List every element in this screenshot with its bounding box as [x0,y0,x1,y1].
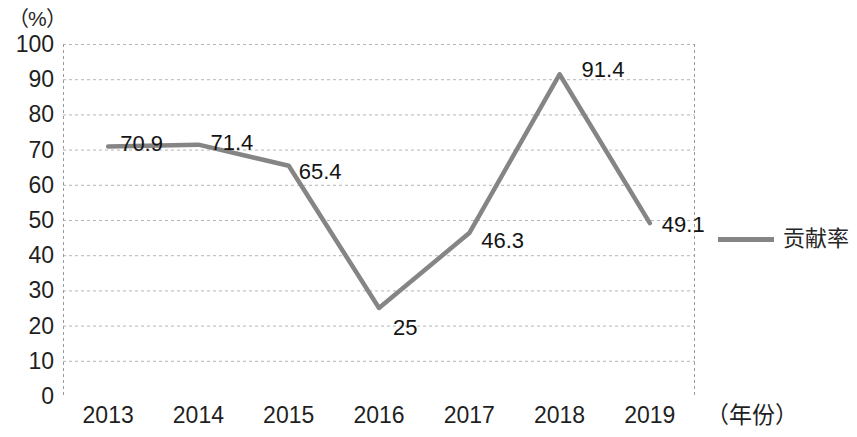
data-label-2016: 25 [393,317,417,339]
line-chart-figure: （%） 1009080706050403020100 2013201420152… [0,0,857,437]
series-line-贡献率 [108,74,650,308]
y-tick-label: 20 [8,315,54,338]
legend-label-contribution-rate: 贡献率 [783,228,849,250]
y-tick-label: 70 [8,139,54,162]
y-tick-label: 100 [8,33,54,56]
plot-area [63,44,695,396]
x-tick-label-2019: 2019 [605,404,695,427]
series-line-chart-svg [63,44,695,396]
y-axis-unit-label: （%） [8,2,66,32]
y-tick-label: 80 [8,103,54,126]
y-tick-label: 10 [8,350,54,373]
x-tick-label-2017: 2017 [424,404,514,427]
data-label-2014: 71.4 [210,132,253,154]
y-tick-label: 0 [8,385,54,408]
x-tick-label-2018: 2018 [515,404,605,427]
x-tick-label-2014: 2014 [153,404,243,427]
y-tick-label: 90 [8,68,54,91]
data-label-2018: 91.4 [582,59,625,81]
x-tick-label-2016: 2016 [334,404,424,427]
x-tick-label-2013: 2013 [63,404,153,427]
data-label-2019: 49.1 [662,214,705,236]
chart-legend: 贡献率 [718,228,849,250]
data-label-2017: 46.3 [481,230,524,252]
legend-line-swatch [718,237,774,242]
y-tick-label: 30 [8,279,54,302]
y-tick-label: 60 [8,174,54,197]
data-label-2013: 70.9 [120,133,163,155]
y-tick-label: 40 [8,244,54,267]
y-tick-label: 50 [8,209,54,232]
x-tick-label-2015: 2015 [244,404,334,427]
x-axis-title: （年份） [706,404,798,427]
data-label-2015: 65.4 [299,161,342,183]
